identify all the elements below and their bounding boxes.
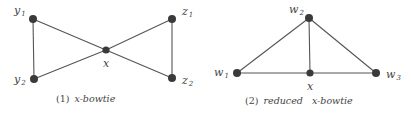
caption-reduced-x-bowtie: (2)reduced x-bowtie (245, 95, 353, 106)
edge-x-z1 (106, 19, 172, 50)
label-y1: y1 (13, 4, 26, 18)
edge-w2-x (309, 18, 310, 73)
edge-w2-w1 (237, 18, 309, 73)
label-x: x (103, 57, 110, 70)
label-w1: w1 (214, 66, 229, 80)
node-x (306, 69, 313, 76)
label-z2: z2 (181, 74, 194, 88)
edge-y2-x (34, 50, 106, 79)
edge-y1-y2 (33, 19, 34, 79)
node-w3 (372, 69, 380, 77)
node-y2 (30, 75, 38, 83)
node-x (102, 46, 109, 53)
edge-x-z2 (106, 50, 172, 78)
caption-x-bowtie: (1)x-bowtie (56, 93, 116, 104)
label-w2: w2 (289, 3, 304, 17)
label-z1: z1 (181, 5, 193, 19)
node-z2 (168, 74, 176, 82)
bowtie-diagrams: y1 y2 x z1 z2 (1)x-bowtie w2 w1 x w3 (2)… (0, 0, 411, 116)
label-y2: y2 (13, 73, 26, 87)
figure-reduced-x-bowtie: w2 w1 x w3 (2)reduced x-bowtie (214, 3, 401, 106)
node-w2 (305, 14, 313, 22)
label-x: x (307, 80, 314, 93)
node-y1 (29, 15, 37, 23)
edge-w2-w3 (309, 18, 376, 73)
label-w3: w3 (386, 68, 401, 82)
edge-y1-x (33, 19, 106, 50)
node-z1 (168, 15, 176, 23)
node-w1 (233, 69, 241, 77)
figure-x-bowtie: y1 y2 x z1 z2 (1)x-bowtie (13, 4, 194, 104)
